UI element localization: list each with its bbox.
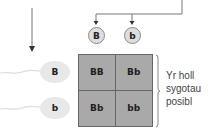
left-down-arrow-icon [29,8,35,52]
cell-bb: bb [116,91,153,127]
cell-Bb-bottom: Bb [79,91,116,127]
sperm-gamete-b: b [40,97,70,119]
top-connector-arrows-icon [94,0,183,25]
label-line-3: posibl [166,95,210,108]
cell-Bb-top: Bb [116,55,153,91]
bracket-icon [156,55,160,127]
sperm-tail-icon [0,70,40,109]
sperm-gamete-B: B [40,61,70,83]
punnett-diagram: B b B b BB Bb Bb bb Yr holl sygotau posi… [0,0,210,137]
top-gamete-b: b [124,27,141,44]
cell-BB: BB [79,55,116,91]
label-line-1: Yr holl [166,69,210,82]
label-line-2: sygotau [166,82,210,95]
all-possible-zygotes-label: Yr holl sygotau posibl [166,69,210,108]
punnett-square: BB Bb Bb bb [78,54,153,127]
top-gamete-B: B [88,27,105,44]
